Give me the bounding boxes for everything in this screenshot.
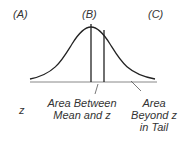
area-beyond-line1: Area — [128, 97, 180, 109]
bell-curve — [30, 27, 155, 79]
area-between-line1: Area Between — [44, 97, 120, 109]
area-between-label: Area Between Mean and z — [44, 97, 120, 121]
z-row-label: z — [19, 104, 25, 116]
area-beyond-label: Area Beyond z in Tail — [128, 97, 180, 133]
area-beyond-line3: in Tail — [128, 121, 180, 133]
area-between-line2: Mean and z — [44, 109, 120, 121]
area-beyond-line2: Beyond z — [128, 109, 180, 121]
area-between-pointer — [95, 84, 98, 94]
